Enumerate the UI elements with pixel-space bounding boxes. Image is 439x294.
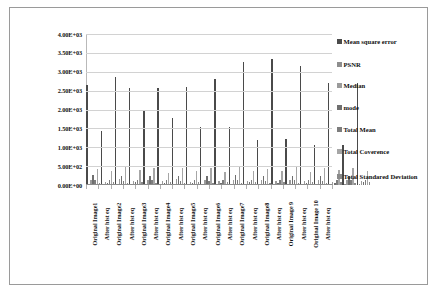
x-axis-label-cell: Original Image8 [258, 190, 270, 260]
legend-label: Total Mean [344, 126, 376, 134]
x-axis-tick [209, 185, 210, 189]
column-chart: 4.00E+033.50E+033.00E+032.50E+032.00E+03… [10, 8, 429, 286]
bar [229, 127, 230, 186]
legend-label: Total Coverence [344, 148, 390, 156]
x-axis-tick [332, 185, 333, 189]
y-axis-tick-label: 5.00E+02 [24, 163, 82, 170]
gridline [86, 128, 332, 129]
legend-swatch-icon [337, 39, 342, 44]
x-axis-tick [111, 185, 112, 189]
bar [115, 77, 116, 185]
x-axis-labels: Original Image1After hist eqOriginal Ima… [86, 190, 332, 260]
legend-item[interactable]: PSNR [337, 61, 427, 69]
y-axis-tick-label: 2.00E+03 [24, 106, 82, 113]
x-axis-label-cell: Original Image3 [135, 190, 147, 260]
x-axis-label-cell: After hist eq [320, 190, 332, 260]
legend-swatch-icon [337, 83, 342, 88]
bar [300, 66, 301, 185]
x-axis-label-cell: Original Image4 [160, 190, 172, 260]
gridline [86, 91, 332, 92]
x-axis-label-cell: After hist eq [221, 190, 233, 260]
legend-item[interactable]: Total Coverence [337, 148, 427, 156]
bar [200, 127, 201, 186]
x-axis-tick [234, 185, 235, 189]
x-axis-label-cell: After hist eq [123, 190, 135, 260]
legend-swatch-icon [337, 105, 342, 110]
y-axis-tick-label: 1.00E+03 [24, 144, 82, 151]
x-axis-ticks [86, 185, 332, 189]
x-axis-label-cell: Original Image1 [86, 190, 98, 260]
legend-label: Median [344, 82, 366, 90]
legend-label: mode [344, 104, 359, 112]
y-axis-tick-label: 3.50E+03 [24, 49, 82, 56]
x-axis-label-cell: After hist eq [246, 190, 258, 260]
bar [157, 88, 158, 185]
legend-swatch-icon [337, 174, 342, 179]
legend-label: Mean square error [344, 38, 397, 46]
bar [86, 85, 87, 185]
x-axis-tick [271, 185, 272, 189]
x-axis-label-cell: After hist eq [270, 190, 282, 260]
y-axis-tick-label: 4.00E+03 [24, 31, 82, 38]
bar [328, 83, 329, 185]
x-axis-tick-label: After hist eq [325, 208, 332, 240]
x-axis-label-cell: After hist eq [98, 190, 110, 260]
gridline [86, 166, 332, 167]
gridline [86, 72, 332, 73]
legend-label: Total Standared Deviation [344, 173, 418, 181]
x-axis-tick [283, 185, 284, 189]
x-axis-tick [86, 185, 87, 189]
legend-item[interactable]: Mean square error [337, 38, 427, 46]
x-axis-tick [184, 185, 185, 189]
y-axis-tick-label: 3.00E+03 [24, 68, 82, 75]
chart-legend: Mean square errorPSNRMedianmodeTotal Mea… [337, 34, 427, 204]
x-axis-tick [160, 185, 161, 189]
x-axis-tick [320, 185, 321, 189]
x-axis-label-cell: Original Image7 [234, 190, 246, 260]
legend-swatch-icon [337, 62, 342, 67]
legend-item[interactable]: Total Mean [337, 126, 427, 134]
gridline [86, 110, 332, 111]
x-axis-tick [98, 185, 99, 189]
x-axis-label-cell: Original Image6 [209, 190, 221, 260]
x-axis-tick [258, 185, 259, 189]
x-axis-tick [197, 185, 198, 189]
legend-item[interactable]: Median [337, 82, 427, 90]
legend-swatch-icon [337, 127, 342, 132]
x-axis-label-cell: Original Image2 [111, 190, 123, 260]
legend-item[interactable]: mode [337, 104, 427, 112]
y-axis-tick-label: 2.50E+03 [24, 87, 82, 94]
legend-swatch-icon [337, 149, 342, 154]
bar [101, 131, 102, 185]
chart-frame: 4.00E+033.50E+033.00E+032.50E+032.00E+03… [9, 7, 428, 285]
x-axis-tick [307, 185, 308, 189]
x-axis-label-cell: Original Image 10 [307, 190, 319, 260]
y-axis-tick-label: 1.50E+03 [24, 125, 82, 132]
x-axis-label-cell: Original Image 9 [283, 190, 295, 260]
x-axis-label-cell: Original Image5 [184, 190, 196, 260]
bar [214, 79, 215, 185]
y-axis-labels: 4.00E+033.50E+033.00E+032.50E+032.00E+03… [24, 34, 82, 194]
y-axis-tick-label: 0.00E+00 [24, 182, 82, 189]
x-axis-label-cell: After hist eq [295, 190, 307, 260]
x-axis-tick [135, 185, 136, 189]
x-axis-tick [123, 185, 124, 189]
x-axis-label-cell: After hist eq [197, 190, 209, 260]
x-axis-tick [148, 185, 149, 189]
bar [186, 87, 187, 185]
x-axis-label-cell: After hist eq [172, 190, 184, 260]
x-axis-tick [246, 185, 247, 189]
legend-item[interactable]: Total Standared Deviation [337, 173, 427, 181]
legend-label: PSNR [344, 61, 361, 69]
bar [129, 88, 130, 185]
x-axis-tick [295, 185, 296, 189]
plot-area [86, 34, 332, 185]
x-axis-tick [172, 185, 173, 189]
x-axis-label-cell: After hist eq [147, 190, 159, 260]
gridline [86, 34, 332, 35]
gridline [86, 147, 332, 148]
x-axis-tick [221, 185, 222, 189]
gridline [86, 53, 332, 54]
bar [285, 139, 286, 185]
